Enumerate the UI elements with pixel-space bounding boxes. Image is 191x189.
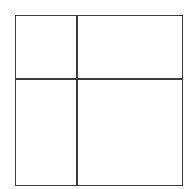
horizontal-divider-line — [15, 78, 183, 80]
vertical-divider-line — [76, 15, 78, 186]
outer-square-frame — [15, 15, 183, 186]
